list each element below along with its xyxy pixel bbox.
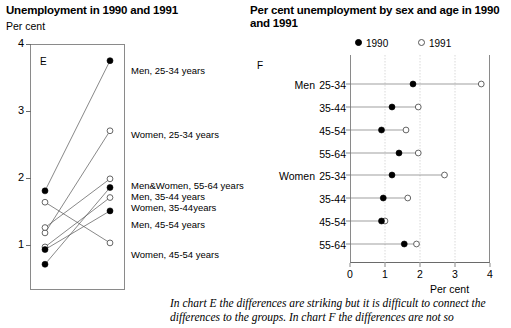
chart-e-ytick-2 — [26, 178, 31, 179]
chart-e-series-label-menwomen-55-64: Men&Women, 55-64 years — [131, 180, 244, 191]
chart-f-legend-label-1990: 1990 — [366, 38, 388, 49]
chart-f-row-label-women-35-44: 35-44 — [308, 193, 346, 205]
chart-f-xtick-label-2: 2 — [412, 268, 428, 280]
chart-e-series-label-women-35-44: Women, 35-44years — [131, 202, 216, 213]
chart-f-row-label-men-25-34: 25-34 — [308, 79, 346, 91]
open-dot-icon — [418, 39, 425, 46]
chart-f-legend-label-1991: 1991 — [429, 38, 451, 49]
chart-f-group-label-women: Women — [255, 170, 315, 182]
chart-e-ytick-label-2: 2 — [4, 171, 24, 183]
chart-e-ytick-label-4: 4 — [4, 37, 24, 49]
chart-f-legend-1990: 1990 — [355, 38, 388, 49]
figure-caption: In chart E the differences are striking … — [170, 296, 511, 324]
chart-e-unit-label: Per cent — [6, 20, 45, 32]
chart-e-series-label-women-45-54: Women, 45-54 years — [131, 249, 219, 260]
chart-f-row-label-men-45-54: 45-54 — [308, 125, 346, 137]
chart-f-group-label-men: Men — [255, 79, 315, 91]
chart-f-plot-area — [350, 55, 490, 263]
chart-f-panel-letter: F — [257, 60, 263, 71]
filled-dot-icon — [355, 39, 362, 46]
chart-f-xtick-label-3: 3 — [447, 268, 463, 280]
chart-e-panel-letter: E — [40, 56, 47, 67]
chart-e-ytick-label-1: 1 — [4, 238, 24, 250]
chart-f-title: Per cent unemployment by sex and age in … — [250, 4, 500, 30]
chart-f-xtick-label-1: 1 — [377, 268, 393, 280]
chart-e-series-label-men-25-34: Men, 25-34 years — [131, 65, 205, 76]
chart-e-title: Unemployment in 1990 and 1991 — [6, 4, 246, 17]
chart-f-row-label-women-45-54: 45-54 — [308, 216, 346, 228]
chart-f-legend-1991: 1991 — [418, 38, 451, 49]
chart-f-xaxis-title: Per cent — [430, 283, 469, 295]
chart-e-ytick-label-3: 3 — [4, 104, 24, 116]
chart-e-panel: Unemployment in 1990 and 1991 Per cent E… — [0, 0, 250, 300]
chart-f-xtick-label-4: 4 — [482, 268, 498, 280]
chart-e-plot-area — [30, 44, 125, 290]
chart-e-series-label-women-25-34: Women, 25-34 years — [131, 129, 219, 140]
chart-e-ytick-1 — [26, 245, 31, 246]
chart-f-xtick-label-0: 0 — [342, 268, 358, 280]
chart-f-row-label-men-35-44: 35-44 — [308, 102, 346, 114]
chart-f-row-label-women-55-64: 55-64 — [308, 239, 346, 251]
chart-f-row-label-men-55-64: 55-64 — [308, 148, 346, 160]
chart-e-ytick-3 — [26, 111, 31, 112]
chart-e-ytick-4 — [26, 44, 31, 45]
chart-f-row-label-women-25-34: 25-34 — [308, 170, 346, 182]
chart-e-series-label-men-35-44: Men, 35-44 years — [131, 191, 205, 202]
chart-e-series-label-men-45-54: Men, 45-54 years — [131, 219, 205, 230]
